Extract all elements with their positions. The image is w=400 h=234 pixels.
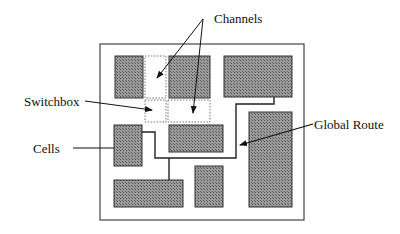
cell-bottom-middle [195,166,223,207]
cells-group [114,56,292,207]
switchbox-label: Switchbox [24,95,80,108]
channel-vertical [145,56,166,98]
channel-horizontal [168,100,210,122]
cell-top-middle [169,56,210,98]
switchbox [145,100,166,122]
cell-bottom-left [114,180,183,207]
global-route-label: Global Route [314,118,384,131]
cell-left-middle [114,125,142,166]
cell-top-right [224,56,292,97]
cell-top-left [115,56,143,98]
cell-right-tall [249,112,292,207]
channels-label: Channels [214,12,262,25]
cell-center [169,125,223,152]
switchbox-arrow [85,101,152,110]
cells-label: Cells [33,142,60,155]
